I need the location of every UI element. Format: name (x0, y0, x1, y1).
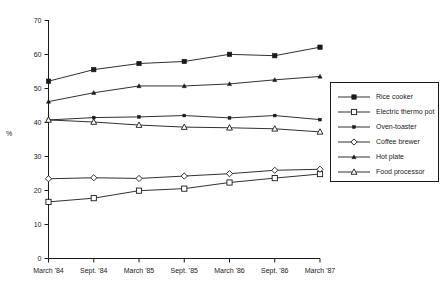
x-tick-label: Sept. '86 (261, 267, 289, 275)
chart-root: % 010203040506070 March '84Sept. '84Marc… (0, 0, 442, 285)
series-oven-toaster (47, 114, 321, 121)
data-point-open-diamond (181, 173, 187, 179)
data-point-filled-square (318, 45, 322, 49)
legend-list: Rice cookerElectric thermo potOven-toast… (331, 83, 438, 179)
data-point-small-filled-dot (353, 125, 356, 128)
y-tick-label: 30 (34, 153, 42, 160)
series-food-processor (46, 117, 323, 134)
x-tick-group: March '84Sept. '84March '85Sept. '85Marc… (33, 259, 335, 276)
data-point-open-diamond (45, 176, 51, 182)
data-point-small-filled-dot (319, 118, 322, 121)
x-tick-label: March '87 (305, 267, 336, 274)
series-layer (45, 45, 323, 205)
data-point-open-square (227, 180, 232, 185)
legend-item[interactable]: Food processor (331, 164, 438, 179)
legend-item[interactable]: Oven-toaster (331, 119, 438, 134)
x-tick-label: March '84 (33, 267, 64, 274)
y-tick-label: 0 (38, 255, 42, 262)
legend-item[interactable]: Rice cooker (331, 89, 438, 104)
y-tick-label: 20 (34, 187, 42, 194)
series-line (49, 76, 321, 101)
y-tick-label: 70 (34, 17, 42, 24)
legend-label: Hot plate (376, 152, 404, 162)
data-point-small-filled-dot (228, 117, 231, 120)
legend-label: Oven-toaster (376, 122, 416, 132)
y-axis: 010203040506070 (34, 17, 49, 262)
data-point-filled-square (352, 94, 356, 98)
data-point-small-filled-dot (273, 114, 276, 117)
x-tick-label: Sept. '84 (80, 267, 108, 275)
legend-item[interactable]: Coffee brewer (331, 134, 438, 149)
legend-label: Food processor (376, 167, 425, 177)
legend-swatch-small-filled-dot-icon (337, 122, 371, 132)
y-tick-label: 10 (34, 221, 42, 228)
data-point-filled-square (273, 54, 277, 58)
series-rice-cooker (46, 45, 322, 83)
x-tick-label: March '86 (214, 267, 245, 274)
data-point-open-diamond (136, 175, 142, 181)
legend-item[interactable]: Electric thermo pot (331, 104, 438, 119)
data-point-open-diamond (272, 167, 278, 173)
data-point-open-square (351, 109, 356, 114)
data-point-open-diamond (226, 171, 232, 177)
data-point-filled-square (182, 59, 186, 63)
legend-swatch-open-diamond-icon (337, 137, 371, 147)
data-point-open-diamond (351, 138, 357, 144)
legend-swatch-open-square-icon (337, 107, 371, 117)
x-tick-label: March '85 (124, 267, 155, 274)
legend-label: Rice cooker (376, 92, 413, 102)
y-tick-label: 50 (34, 85, 42, 92)
data-point-open-square (182, 186, 187, 191)
y-tick-label: 40 (34, 119, 42, 126)
data-point-small-filled-dot (183, 114, 186, 117)
x-tick-label: Sept. '85 (171, 267, 199, 275)
data-point-filled-square (92, 67, 96, 71)
data-point-open-square (46, 199, 51, 204)
legend-swatch-filled-square-icon (337, 92, 371, 102)
series-line (49, 47, 321, 81)
legend-swatch-open-triangle-icon (337, 167, 371, 177)
y-tick-group: 010203040506070 (34, 17, 49, 262)
x-axis: March '84Sept. '84March '85Sept. '85Marc… (33, 259, 335, 276)
legend-item[interactable]: Hot plate (331, 149, 438, 164)
data-point-filled-square (137, 61, 141, 65)
chart-legend: Rice cookerElectric thermo potOven-toast… (330, 82, 439, 182)
data-point-small-filled-dot (138, 116, 141, 119)
series-coffee-brewer (45, 166, 323, 182)
series-hot-plate (46, 74, 322, 103)
data-point-open-diamond (91, 175, 97, 181)
data-point-open-square (272, 176, 277, 181)
legend-label: Electric thermo pot (376, 107, 434, 117)
legend-label: Coffee brewer (376, 137, 420, 147)
legend-swatch-small-filled-triangle-icon (337, 152, 371, 162)
data-point-filled-square (227, 52, 231, 56)
data-point-open-square (91, 196, 96, 201)
y-tick-label: 60 (34, 51, 42, 58)
data-point-open-square (136, 188, 141, 193)
data-point-filled-square (46, 79, 50, 83)
